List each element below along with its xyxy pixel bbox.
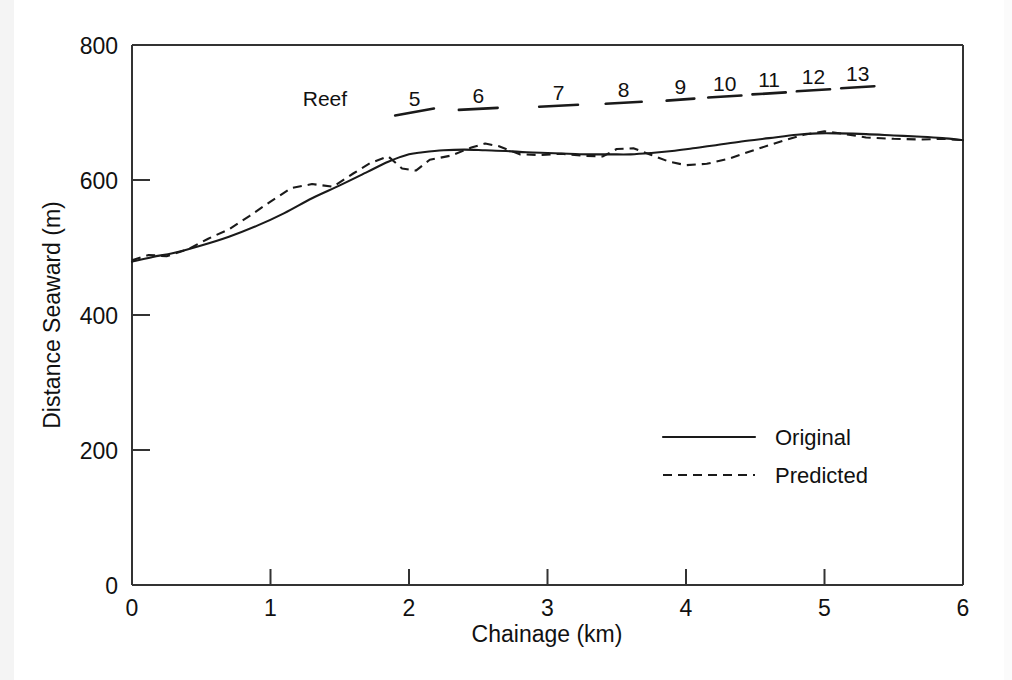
x-axis-tick-labels: 0123456 xyxy=(126,595,970,621)
y-axis-tick-labels: 0200400600800 xyxy=(80,33,118,599)
reef-label-13: 13 xyxy=(846,62,869,85)
x-tick-label-4: 4 xyxy=(680,595,693,621)
x-tick-label-1: 1 xyxy=(264,595,277,621)
legend-label-predicted: Predicted xyxy=(775,463,868,488)
x-tick-label-5: 5 xyxy=(818,595,831,621)
reef-rule-8 xyxy=(606,102,642,104)
reef-label-9: 9 xyxy=(675,75,687,98)
x-tick-label-3: 3 xyxy=(541,595,554,621)
plot-frame xyxy=(132,45,963,585)
reef-rule-9 xyxy=(667,99,695,101)
y-axis-ticks xyxy=(132,45,150,585)
x-axis-title: Chainage (km) xyxy=(472,621,623,647)
reef-prefix-label: Reef xyxy=(303,87,348,110)
series-line-predicted xyxy=(132,131,963,260)
reef-rule-6 xyxy=(459,108,498,110)
reef-label-7: 7 xyxy=(553,81,565,104)
x-axis-ticks xyxy=(132,569,963,585)
reef-label-5: 5 xyxy=(409,87,421,110)
y-tick-label-0: 0 xyxy=(105,573,118,599)
y-axis-title: Distance Seaward (m) xyxy=(39,201,65,429)
x-tick-label-0: 0 xyxy=(126,595,139,621)
x-tick-label-2: 2 xyxy=(403,595,416,621)
reef-label-12: 12 xyxy=(802,65,825,88)
figure-canvas: 0200400600800 0123456 5678910111213 Reef… xyxy=(0,0,1012,680)
x-tick-label-6: 6 xyxy=(957,595,970,621)
reef-rule-10 xyxy=(708,96,741,98)
legend: Original Predicted xyxy=(663,425,868,488)
y-tick-label-400: 400 xyxy=(80,303,118,329)
line-chart: 0200400600800 0123456 5678910111213 Reef… xyxy=(0,0,1012,680)
y-tick-label-800: 800 xyxy=(80,33,118,59)
reef-annotation-group: 5678910111213 xyxy=(395,62,874,115)
y-tick-label-600: 600 xyxy=(80,168,118,194)
y-tick-label-200: 200 xyxy=(80,438,118,464)
reef-rule-7 xyxy=(539,105,578,107)
reef-rule-12 xyxy=(797,89,830,91)
reef-label-11: 11 xyxy=(758,68,780,91)
reef-rule-13 xyxy=(841,86,874,88)
reef-label-6: 6 xyxy=(472,84,484,107)
reef-rule-11 xyxy=(752,92,785,94)
reef-label-8: 8 xyxy=(618,78,630,101)
reef-label-10: 10 xyxy=(713,72,736,95)
series-line-original xyxy=(132,133,963,261)
legend-label-original: Original xyxy=(775,425,851,450)
